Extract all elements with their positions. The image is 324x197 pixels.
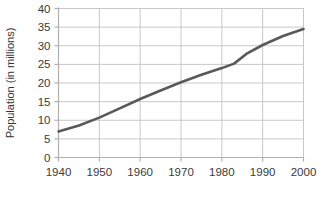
- population-line-chart: 0510152025303540 19401950196019701980199…: [0, 0, 324, 197]
- x-tick-label: 2000: [291, 166, 317, 178]
- y-tick-label: 40: [38, 3, 51, 15]
- x-tick-label: 1990: [250, 166, 276, 178]
- x-tick-label: 1960: [127, 166, 153, 178]
- y-tick-label: 5: [44, 133, 50, 145]
- x-tick-label: 1970: [168, 166, 194, 178]
- y-tick-label: 10: [38, 114, 51, 126]
- y-tick-label: 15: [38, 96, 51, 108]
- chart-canvas: 0510152025303540 19401950196019701980199…: [0, 0, 324, 197]
- y-axis-label-text: Population (in millions): [4, 28, 16, 139]
- y-axis-title: Population (in millions): [4, 28, 16, 139]
- x-tick-label: 1950: [87, 166, 113, 178]
- y-axis-tick-labels: 0510152025303540: [38, 3, 51, 164]
- x-tick-label: 1980: [209, 166, 235, 178]
- y-tick-label: 30: [38, 40, 51, 52]
- y-tick-label: 35: [38, 21, 51, 33]
- x-tick-label: 1940: [46, 166, 72, 178]
- y-tick-label: 0: [44, 152, 50, 164]
- x-axis-tick-labels: 1940195019601970198019902000: [46, 166, 317, 178]
- y-tick-label: 20: [38, 77, 51, 89]
- y-tick-label: 25: [38, 58, 51, 70]
